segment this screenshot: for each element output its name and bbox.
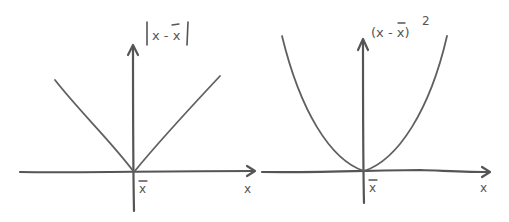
parabola-curve <box>282 36 447 171</box>
x-axis-left <box>20 171 254 172</box>
x-axis-label-left: x <box>244 182 251 196</box>
panel-absolute-deviation: x - x x x <box>20 22 255 211</box>
y-label-text-right: (x - x) <box>371 25 410 40</box>
origin-label-right: x <box>369 180 377 195</box>
y-axis-right <box>363 41 364 203</box>
y-axis-label-left: x - x <box>147 22 188 45</box>
y-axis-label-right: (x - x) 2 <box>371 14 430 40</box>
origin-label-left: x <box>139 181 147 196</box>
abs-curve-right-arm <box>134 76 220 172</box>
x-axis-label-right: x <box>480 181 487 195</box>
y-label-text-left: x - x <box>152 28 181 43</box>
deviation-diagram: x - x x x (x - x) 2 x <box>0 0 509 222</box>
origin-x-text-right: x <box>369 181 376 195</box>
origin-x-text-left: x <box>139 182 146 196</box>
panel-squared-deviation: (x - x) 2 x x <box>262 14 490 203</box>
y-label-exponent-right: 2 <box>422 14 430 28</box>
y-axis-left <box>133 47 134 211</box>
abs-curve-left-arm <box>55 80 134 172</box>
x-axis-right <box>262 170 489 172</box>
